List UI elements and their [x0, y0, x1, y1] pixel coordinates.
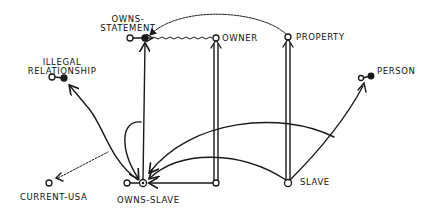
edge-loop: [125, 122, 141, 178]
person-node: [368, 73, 374, 79]
illegal-relationship-line2: RELATIONSHIP: [22, 67, 102, 76]
illegal-relationship-label: ILLEGAL RELATIONSHIP: [22, 58, 102, 76]
slave-label: SLAVE: [300, 178, 330, 187]
owns-slave-label: OWNS-SLAVE: [117, 196, 180, 205]
current-usa-node: [46, 180, 52, 186]
slave-node: [285, 180, 292, 187]
edge-owner-double: [214, 44, 218, 183]
owns-statement-line2: STATEMENT: [88, 24, 168, 33]
edge-current-usa-wavy: [58, 152, 108, 178]
owns-statement-open-node: [127, 35, 133, 41]
owns-statement-label: OWNS- STATEMENT: [88, 15, 168, 33]
edge-property-owns-statement-arc: [150, 14, 286, 35]
owns-slave-node-center: [142, 182, 145, 185]
edge-slave-property-double: [286, 43, 290, 180]
diagram-canvas: [0, 0, 437, 212]
owns-statement-node: [142, 35, 148, 41]
person-open-node: [359, 76, 364, 81]
owner-bottom-node: [213, 180, 219, 186]
property-node: [285, 34, 291, 40]
owner-node: [213, 35, 219, 41]
edge-owner-owns-statement-wavy: [148, 37, 212, 39]
property-label: PROPERTY: [296, 33, 345, 42]
owns-slave-open-node: [124, 180, 130, 186]
person-label: PERSON: [377, 67, 415, 76]
current-usa-label: CURRENT-USA: [20, 193, 87, 202]
edge-owns-slave-to-owns-statement: [143, 44, 145, 180]
owner-label: OWNER: [222, 34, 258, 43]
